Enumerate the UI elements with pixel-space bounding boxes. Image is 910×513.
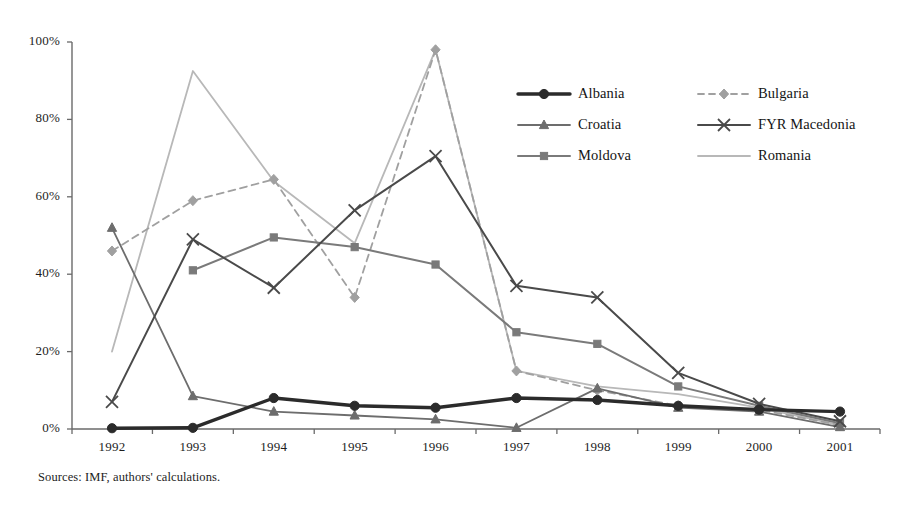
legend-swatch-none-icon [696, 146, 752, 166]
marker-circle [188, 423, 197, 432]
x-axis-tick-label: 1992 [82, 439, 142, 455]
legend-label: Albania [578, 85, 625, 102]
legend-label: Moldova [578, 147, 631, 164]
marker-circle [674, 401, 683, 410]
legend-swatch-cross-icon [696, 115, 752, 135]
legend-item-croatia[interactable]: Croatia [516, 115, 696, 135]
legend-swatch-circle-icon [516, 84, 572, 104]
line-chart: 0%20%40%60%80%100% 199219931994199519961… [0, 0, 910, 513]
marker-cross [430, 150, 442, 162]
marker-circle [835, 407, 844, 416]
marker-cross [268, 282, 280, 294]
legend-swatch-triangle-icon [516, 115, 572, 135]
x-axis-tick-label: 1996 [406, 439, 466, 455]
legend-item-albania[interactable]: Albania [516, 84, 696, 104]
chart-legend: AlbaniaBulgariaCroatiaFYR MacedoniaMoldo… [516, 78, 896, 171]
marker-square [540, 152, 547, 159]
legend-item-fyr-macedonia[interactable]: FYR Macedonia [696, 115, 896, 135]
marker-square [675, 383, 682, 390]
y-axis-tick-label: 40% [14, 265, 60, 281]
x-axis-tick-label: 2001 [810, 439, 870, 455]
source-note: Sources: IMF, authors' calculations. [38, 470, 220, 485]
marker-diamond [719, 89, 728, 99]
y-axis-tick-label: 80% [14, 110, 60, 126]
legend-swatch-square-icon [516, 146, 572, 166]
marker-cross [349, 204, 361, 216]
y-axis-tick-label: 60% [14, 188, 60, 204]
marker-circle [593, 395, 602, 404]
series-line [112, 156, 840, 421]
legend-item-bulgaria[interactable]: Bulgaria [696, 84, 896, 104]
marker-circle [539, 89, 548, 98]
marker-triangle [107, 223, 116, 232]
marker-square [189, 267, 196, 274]
x-axis-tick-label: 1997 [486, 439, 546, 455]
marker-cross [672, 367, 684, 379]
marker-square [351, 244, 358, 251]
marker-diamond [107, 246, 116, 256]
marker-circle [431, 403, 440, 412]
y-axis-tick-label: 100% [14, 33, 60, 49]
marker-square [270, 234, 277, 241]
marker-circle [755, 405, 764, 414]
chart-plot-area [0, 0, 910, 513]
legend-label: Croatia [578, 116, 621, 133]
series-fyr-macedonia [106, 150, 846, 427]
marker-circle [512, 393, 521, 402]
marker-circle [107, 424, 116, 433]
marker-triangle [188, 391, 197, 400]
legend-item-romania[interactable]: Romania [696, 146, 896, 166]
marker-square [513, 329, 520, 336]
y-axis-tick-label: 20% [14, 343, 60, 359]
x-axis-tick-label: 1995 [325, 439, 385, 455]
marker-diamond [431, 45, 440, 55]
legend-label: Bulgaria [758, 85, 809, 102]
marker-square [432, 261, 439, 268]
legend-label: Romania [758, 147, 811, 164]
marker-circle [269, 393, 278, 402]
x-axis-tick-label: 1998 [567, 439, 627, 455]
legend-swatch-diamond-icon [696, 84, 752, 104]
marker-cross [187, 233, 199, 245]
x-axis-tick-label: 1994 [244, 439, 304, 455]
x-axis-tick-label: 1993 [163, 439, 223, 455]
legend-item-moldova[interactable]: Moldova [516, 146, 696, 166]
marker-cross [106, 396, 118, 408]
marker-diamond [512, 366, 521, 376]
marker-diamond [188, 196, 197, 206]
x-axis-tick-label: 1999 [648, 439, 708, 455]
y-axis-ticks [67, 42, 72, 429]
legend-label: FYR Macedonia [758, 116, 856, 133]
marker-square [594, 340, 601, 347]
x-axis-tick-label: 2000 [729, 439, 789, 455]
marker-circle [350, 401, 359, 410]
y-axis-tick-label: 0% [14, 420, 60, 436]
marker-triangle [593, 383, 602, 392]
